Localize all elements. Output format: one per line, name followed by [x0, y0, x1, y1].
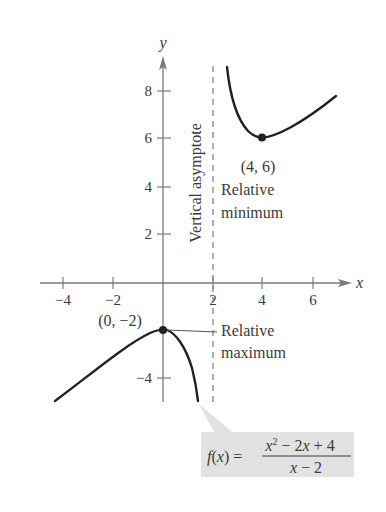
relative-maximum-point — [159, 326, 167, 334]
x-tick-label: 4 — [258, 292, 266, 308]
function-graph: −4 −2 2 4 6 8 6 4 2 −4 x y Vertical asym… — [0, 0, 386, 512]
max-label-line2: maximum — [221, 344, 286, 361]
max-leader-line — [167, 330, 217, 332]
formula-equals: ) = — [224, 448, 242, 466]
curve-right-branch — [227, 67, 336, 138]
formula-pointer — [199, 404, 232, 432]
x-tick-label: −2 — [105, 292, 121, 308]
min-label-line2: minimum — [221, 204, 284, 221]
x-tick-label: 6 — [309, 292, 317, 308]
y-tick-label: 4 — [145, 179, 153, 195]
y-tick-label: −4 — [136, 370, 152, 386]
formula-denominator: x − 2 — [289, 459, 322, 476]
max-point-label: (0, −2) — [98, 312, 142, 330]
formula-x: x — [216, 448, 224, 465]
curve-left-branch — [55, 330, 198, 401]
asymptote-label: Vertical asymptote — [187, 123, 205, 243]
svg-text:f(x) =: f(x) = — [207, 448, 242, 466]
y-tick-label: 6 — [145, 130, 153, 146]
max-label-line1: Relative — [221, 322, 274, 339]
y-tick-label: 8 — [145, 83, 153, 99]
y-ticks — [157, 91, 171, 378]
y-tick-label: 2 — [145, 226, 153, 242]
x-axis-label: x — [355, 274, 363, 291]
relative-minimum-point — [258, 134, 266, 142]
min-label-line1: Relative — [221, 181, 274, 198]
min-point-label: (4, 6) — [241, 158, 276, 176]
y-axis-label: y — [157, 34, 167, 52]
x-tick-label: −4 — [55, 292, 71, 308]
